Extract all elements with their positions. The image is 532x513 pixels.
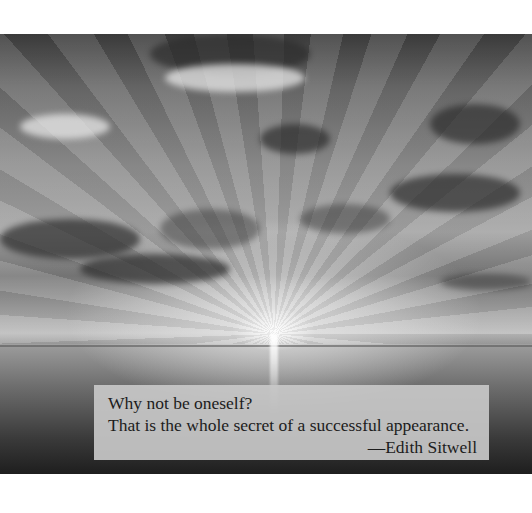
horizon [0,345,532,347]
quote-line-2: That is the whole secret of a successful… [108,414,477,436]
cloud [390,174,520,212]
cloud [260,124,330,154]
cloud [160,209,260,249]
cloud [430,104,520,144]
cloud [165,64,305,92]
cloud [0,219,140,259]
quote-attribution: —Edith Sitwell [108,436,477,458]
cloud [440,274,532,290]
quote-line-1: Why not be oneself? [108,392,477,414]
quote-box: Why not be oneself? That is the whole se… [94,385,489,460]
cloud [20,114,110,139]
cloud [300,204,390,234]
cloud [80,254,230,284]
